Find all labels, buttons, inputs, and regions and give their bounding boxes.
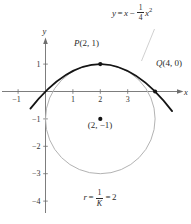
radius-label: r=1K=2: [60, 189, 140, 208]
parabola-curve: [30, 64, 172, 111]
equation-power-exponent: 2: [149, 6, 152, 13]
radius-equals-1: =: [88, 193, 93, 203]
radius-value: 2: [112, 193, 117, 203]
point-p-dot: [98, 62, 102, 66]
equation-fraction: 14: [137, 4, 144, 22]
radius-fraction-numerator: 1: [96, 189, 103, 199]
y-tick-label-neg3: −3: [32, 169, 41, 178]
y-axis-arrowhead: [43, 38, 48, 45]
equation-lhs: y: [112, 8, 116, 18]
equation-fraction-numerator: 1: [137, 4, 144, 13]
radius-equals-2: =: [106, 193, 111, 203]
equation-equals: =: [118, 8, 123, 18]
equation-rhs-var: x: [124, 8, 128, 18]
equation-fraction-denominator: 4: [139, 13, 143, 21]
y-tick-label-neg2: −2: [32, 142, 41, 151]
y-tick-label-neg1: −1: [32, 115, 41, 124]
point-q-coords: (4, 0): [163, 58, 183, 68]
point-p-label: P(2, 1): [74, 39, 99, 49]
x-tick-label-1: 1: [71, 95, 75, 104]
center-coordinates-label: (2, −1): [79, 121, 121, 131]
x-tick-label-3: 3: [126, 95, 130, 104]
y-axis-label: y: [42, 26, 47, 36]
figure-canvas: −1 1 2 3 1 −1 −2 −3 −4 x y y=x−14x2 P(2,…: [0, 0, 191, 224]
x-axis-arrowhead: [177, 89, 184, 94]
radius-fraction-denominator: K: [97, 199, 102, 208]
radius-fraction: 1K: [96, 189, 103, 208]
y-tick-label-neg4: −4: [32, 197, 41, 206]
x-tick-label-2: 2: [98, 95, 102, 104]
x-axis-label: x: [183, 87, 188, 97]
point-q-label: Q(4, 0): [156, 59, 182, 69]
equation-leader-line: [142, 29, 155, 61]
y-tick-label-1: 1: [37, 60, 41, 69]
equation-label: y=x−14x2: [112, 5, 152, 23]
center-coords: (2, −1): [88, 120, 113, 130]
x-tick-label-neg1: −1: [12, 95, 21, 104]
point-q-dot: [153, 89, 157, 93]
point-p-coords: (2, 1): [80, 38, 100, 48]
radius-lhs: r: [83, 193, 87, 203]
equation-minus: −: [130, 8, 135, 18]
